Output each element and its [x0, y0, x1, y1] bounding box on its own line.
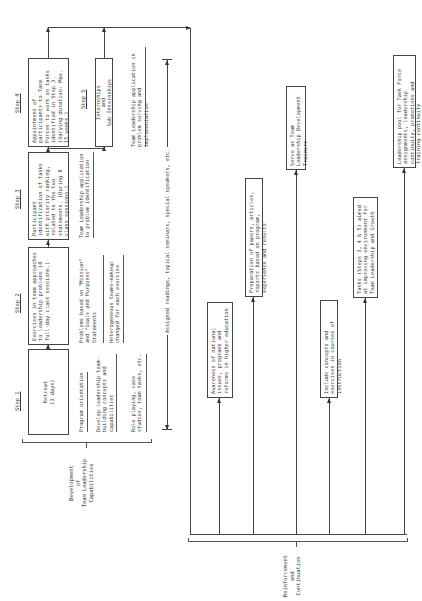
outcome-box-trainers: Serve as Team Leadership Development Tra… — [286, 86, 306, 170]
brace-end — [407, 538, 408, 542]
arrow-right-icon — [102, 146, 106, 151]
arrow-right-icon — [294, 170, 298, 175]
step-1-box: Retreat (3 days) — [28, 349, 69, 435]
step-1-label: Step 1 — [14, 392, 20, 411]
step-4-label: Step 4 — [14, 94, 20, 113]
connector-outcome-4 — [329, 398, 330, 535]
note-program-orientation: Program orientation — [78, 350, 84, 432]
brace-tip — [296, 542, 297, 547]
reinforcement-brace — [188, 541, 408, 542]
outcome-box-awareness: Awareness of national issues, programs a… — [207, 302, 233, 398]
brace-end — [151, 439, 152, 443]
step-4-box: Appointment of participants to Task Forc… — [28, 58, 69, 147]
connector-step4-out — [48, 28, 49, 58]
note-problems-based: Problems based on "Mission" and "Goals a… — [78, 248, 97, 343]
step-5-box: Internships and Sub-Internships — [95, 58, 113, 147]
note-problem-identification: Team Leadership application to problem i… — [78, 152, 91, 238]
note-heterogeneous-teams: Heterogeneous teams—makeup changed for e… — [108, 248, 121, 343]
connector-outcome-6 — [404, 168, 405, 535]
step-2-box: Exercises in team approaches to leadersh… — [28, 247, 69, 345]
brace-tip — [86, 443, 87, 448]
arrow-left-icon — [165, 425, 169, 430]
note-role-playing: Role playing, case studies, team tasks, … — [130, 350, 143, 432]
arrow-right-icon — [46, 344, 50, 349]
connector-branch-step5 — [48, 148, 105, 149]
development-label: Development of Team Leadership Capabilit… — [68, 449, 94, 517]
outcome-box-leadership-pool: Leadership pool for Task Force assignmen… — [393, 55, 416, 168]
connector-outcome-2 — [253, 297, 254, 535]
divider — [103, 255, 104, 343]
outcomes-bus — [190, 534, 407, 535]
divider — [87, 372, 88, 432]
arrow-right-icon — [402, 168, 406, 173]
outcome-box-courses: Include concepts and exercises in course… — [320, 300, 338, 398]
arrow-right-icon — [165, 60, 169, 65]
divider — [145, 47, 146, 147]
step-3-label: Step 3 — [14, 190, 20, 209]
brace-end — [22, 439, 23, 443]
connector-to-bus — [190, 28, 191, 535]
connector-outer-right — [48, 27, 190, 28]
step-5-label: Step 5 — [80, 90, 86, 109]
divider — [123, 255, 124, 343]
divider — [93, 152, 94, 238]
connector-step5-out — [104, 28, 105, 58]
divider — [116, 354, 117, 432]
note-problem-solving: Team Leadership application in problem s… — [130, 47, 149, 147]
connector-outcome-3 — [296, 170, 297, 535]
arrow-right-icon — [46, 240, 50, 245]
note-develop-concepts: Develop leadership team-building concept… — [95, 350, 114, 432]
arrow-right-icon — [363, 298, 367, 303]
development-brace — [22, 442, 152, 443]
step-3-box: Participant identification of tasks with… — [28, 152, 69, 240]
connector-outcome-5 — [365, 298, 366, 535]
brace-end — [188, 538, 189, 542]
step-2-label: Step 2 — [14, 294, 20, 313]
arrow-right-icon — [217, 398, 221, 403]
connector-outcome-1 — [219, 398, 220, 535]
span-label: Assigned readings, topical seminars, spe… — [164, 147, 170, 335]
outcome-box-papers: Preparation of papers, articles, reports… — [245, 178, 263, 297]
arrow-right-icon — [251, 297, 255, 302]
reinforcement-label: Reinforcement and Continuation — [282, 549, 302, 601]
outcome-box-tasks: Tasks (Steps 3, 4 & 5) aimed at improvin… — [353, 197, 378, 298]
divider — [146, 354, 147, 432]
arrow-right-icon — [327, 398, 331, 403]
